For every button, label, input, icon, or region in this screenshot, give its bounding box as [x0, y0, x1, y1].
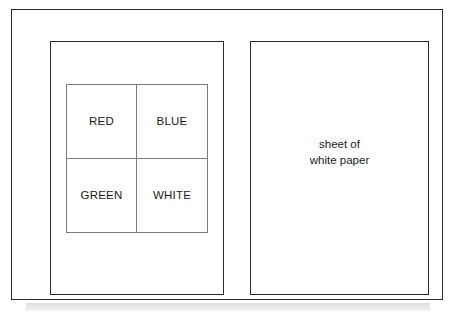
bottom-shadow-band — [26, 303, 430, 311]
grid-cell-blue-label: BLUE — [157, 115, 188, 127]
color-name-grid: RED BLUE GREEN WHITE — [66, 84, 208, 233]
grid-cell-white: WHITE — [137, 159, 207, 233]
grid-cell-green-label: GREEN — [81, 189, 123, 201]
paper-caption-line-1: sheet of — [251, 137, 428, 153]
grid-cell-blue: BLUE — [137, 85, 207, 159]
grid-cell-white-label: WHITE — [153, 189, 191, 201]
figure-root: RED BLUE GREEN WHITE sheet of white pape… — [0, 0, 456, 315]
grid-cell-red: RED — [67, 85, 137, 159]
paper-caption: sheet of white paper — [251, 137, 428, 168]
outer-frame: RED BLUE GREEN WHITE sheet of white pape… — [11, 9, 443, 300]
grid-cell-red-label: RED — [89, 115, 114, 127]
grid-cell-green: GREEN — [67, 159, 137, 233]
right-panel: sheet of white paper — [250, 41, 429, 295]
paper-caption-line-2: white paper — [251, 153, 428, 169]
left-panel: RED BLUE GREEN WHITE — [50, 41, 224, 295]
